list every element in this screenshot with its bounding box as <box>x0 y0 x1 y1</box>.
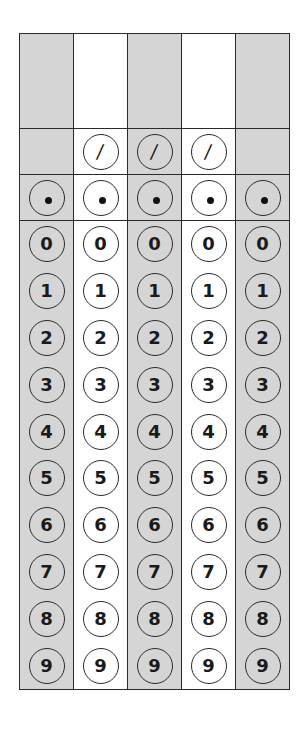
digit-bubble-0[interactable]: 0 <box>83 226 119 262</box>
digit-bubble-5[interactable]: 5 <box>191 460 227 496</box>
digit-label: 9 <box>94 657 107 675</box>
digit-bubble-3[interactable]: 3 <box>245 367 281 403</box>
digit-bubble-2[interactable]: 2 <box>245 320 281 356</box>
digit-label: 7 <box>202 563 215 581</box>
answer-column-1: 0 1 2 3 4 5 6 7 8 9 <box>20 34 74 689</box>
fraction-row-cell-1 <box>20 129 73 175</box>
entry-box-5[interactable] <box>236 34 289 129</box>
decimal-bubble-col-5[interactable] <box>245 180 281 216</box>
decimal-bubble-col-2[interactable] <box>83 180 119 216</box>
decimal-point-icon <box>99 197 106 204</box>
digit-label: 2 <box>256 329 269 347</box>
digit-bubble-5[interactable]: 5 <box>137 460 173 496</box>
fraction-row-cell-2: / <box>74 129 127 175</box>
digit-bubble-0[interactable]: 0 <box>137 226 173 262</box>
fraction-row-cell-3: / <box>128 129 181 175</box>
digit-bubble-8[interactable]: 8 <box>83 601 119 637</box>
digit-bubble-1[interactable]: 1 <box>191 273 227 309</box>
digit-label: 4 <box>256 423 269 441</box>
decimal-bubble-col-4[interactable] <box>191 180 227 216</box>
digit-bubble-8[interactable]: 8 <box>29 601 65 637</box>
fraction-bubble-col-4[interactable]: / <box>191 134 227 170</box>
digit-bubble-2[interactable]: 2 <box>29 320 65 356</box>
digit-label: 5 <box>148 469 161 487</box>
digit-bubble-5[interactable]: 5 <box>245 460 281 496</box>
digit-bubble-4[interactable]: 4 <box>245 414 281 450</box>
entry-box-1[interactable] <box>20 34 73 129</box>
digit-bubble-7[interactable]: 7 <box>29 554 65 590</box>
digit-bubble-1[interactable]: 1 <box>29 273 65 309</box>
digit-bubble-3[interactable]: 3 <box>83 367 119 403</box>
digit-bubble-9[interactable]: 9 <box>29 648 65 684</box>
fraction-bubble-col-2[interactable]: / <box>83 134 119 170</box>
digit-bubble-7[interactable]: 7 <box>137 554 173 590</box>
digit-bubble-1[interactable]: 1 <box>245 273 281 309</box>
digit-bubble-7[interactable]: 7 <box>245 554 281 590</box>
digit-bubble-3[interactable]: 3 <box>191 367 227 403</box>
digit-label: 2 <box>94 329 107 347</box>
digit-bubble-3[interactable]: 3 <box>137 367 173 403</box>
fraction-bubble-col-3[interactable]: / <box>137 134 173 170</box>
digit-bubble-9[interactable]: 9 <box>83 648 119 684</box>
digit-label: 6 <box>202 516 215 534</box>
grid-in-answer-form: 0 1 2 3 4 5 6 7 8 9 / 0 1 2 3 <box>19 33 290 690</box>
digit-label: 4 <box>202 423 215 441</box>
digit-bubble-0[interactable]: 0 <box>191 226 227 262</box>
digit-bubble-6[interactable]: 6 <box>29 507 65 543</box>
fraction-row-cell-4: / <box>182 129 235 175</box>
digit-label: 1 <box>94 282 107 300</box>
fraction-slash-icon: / <box>204 142 213 161</box>
digit-bubble-3[interactable]: 3 <box>29 367 65 403</box>
digit-bubble-1[interactable]: 1 <box>83 273 119 309</box>
entry-box-3[interactable] <box>128 34 181 129</box>
digit-bubble-2[interactable]: 2 <box>137 320 173 356</box>
digit-bubble-7[interactable]: 7 <box>191 554 227 590</box>
digit-bubble-7[interactable]: 7 <box>83 554 119 590</box>
digit-label: 3 <box>94 376 107 394</box>
digit-bubble-9[interactable]: 9 <box>191 648 227 684</box>
digit-label: 9 <box>256 657 269 675</box>
entry-box-4[interactable] <box>182 34 235 129</box>
digit-bubble-1[interactable]: 1 <box>137 273 173 309</box>
digit-label: 2 <box>40 329 53 347</box>
decimal-point-icon <box>207 197 214 204</box>
digit-label: 3 <box>256 376 269 394</box>
digit-bubble-6[interactable]: 6 <box>191 507 227 543</box>
digit-bubble-4[interactable]: 4 <box>29 414 65 450</box>
digit-bubble-6[interactable]: 6 <box>137 507 173 543</box>
digit-bubble-8[interactable]: 8 <box>191 601 227 637</box>
digit-bubble-6[interactable]: 6 <box>245 507 281 543</box>
digit-label: 7 <box>148 563 161 581</box>
digit-label: 3 <box>202 376 215 394</box>
digit-bubble-5[interactable]: 5 <box>29 460 65 496</box>
digit-bubble-6[interactable]: 6 <box>83 507 119 543</box>
digit-bubble-9[interactable]: 9 <box>137 648 173 684</box>
digit-label: 1 <box>256 282 269 300</box>
digit-bubble-0[interactable]: 0 <box>29 226 65 262</box>
digit-bubble-2[interactable]: 2 <box>83 320 119 356</box>
decimal-bubble-col-1[interactable] <box>29 180 65 216</box>
digit-label: 5 <box>40 469 53 487</box>
digit-bubble-9[interactable]: 9 <box>245 648 281 684</box>
digit-bubbles-col-4: 0 1 2 3 4 5 6 7 8 9 <box>182 221 235 689</box>
digit-label: 6 <box>40 516 53 534</box>
digit-label: 5 <box>94 469 107 487</box>
fraction-slash-icon: / <box>96 142 105 161</box>
digit-bubble-4[interactable]: 4 <box>191 414 227 450</box>
digit-bubble-8[interactable]: 8 <box>137 601 173 637</box>
digit-label: 6 <box>94 516 107 534</box>
digit-bubble-8[interactable]: 8 <box>245 601 281 637</box>
digit-label: 2 <box>148 329 161 347</box>
entry-box-2[interactable] <box>74 34 127 129</box>
digit-label: 3 <box>148 376 161 394</box>
digit-bubble-2[interactable]: 2 <box>191 320 227 356</box>
decimal-bubble-col-3[interactable] <box>137 180 173 216</box>
digit-bubble-4[interactable]: 4 <box>137 414 173 450</box>
digit-bubble-4[interactable]: 4 <box>83 414 119 450</box>
fraction-row-cell-5 <box>236 129 289 175</box>
answer-column-5: 0 1 2 3 4 5 6 7 8 9 <box>236 34 289 689</box>
digit-label: 1 <box>148 282 161 300</box>
digit-bubble-0[interactable]: 0 <box>245 226 281 262</box>
digit-bubble-5[interactable]: 5 <box>83 460 119 496</box>
empty-fraction-slot <box>245 134 281 170</box>
